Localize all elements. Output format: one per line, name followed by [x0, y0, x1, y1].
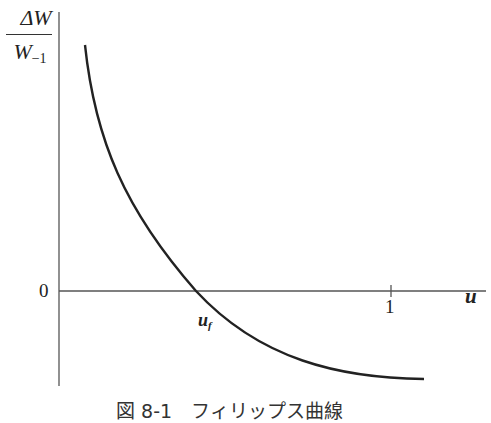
uf-subscript: f: [208, 319, 212, 331]
natural-rate-label: uf: [198, 310, 212, 331]
uf-text: u: [198, 310, 208, 330]
phillips-curve: [85, 45, 424, 379]
y-den-text: W: [13, 39, 31, 64]
x-tick-label-1: 1: [385, 296, 395, 318]
x-axis-label: u: [465, 284, 477, 309]
figure-caption: 図 8-1 フィリップス曲線: [116, 396, 343, 423]
y-num-text: ΔW: [20, 5, 51, 30]
y-axis-label-numerator: ΔW: [12, 5, 60, 31]
y-tick-label-0: 0: [39, 280, 49, 302]
y-den-subscript: −1: [32, 51, 47, 66]
y-axis-fraction-bar: [6, 34, 52, 35]
y-axis-label-denominator: W−1: [4, 39, 56, 67]
